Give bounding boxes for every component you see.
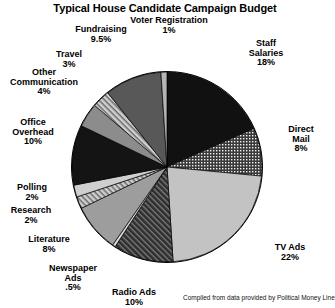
label-polling: Polling 2% (8, 183, 56, 202)
label-newspaper-ads: Newspaper Ads .5% (38, 264, 108, 293)
label-other-communication: Other Communication 4% (2, 68, 86, 97)
label-radio-ads-pct: 10% (99, 298, 169, 308)
label-voter-registration-text: Voter Registration (130, 15, 207, 25)
label-research-pct: 2% (2, 216, 60, 226)
label-other-communication-line1: Other (32, 67, 56, 77)
label-tv-ads-text: TV Ads (275, 242, 306, 252)
label-office-overhead-line1: Office (20, 117, 46, 127)
label-fundraising-pct: 9.5% (62, 35, 140, 45)
label-fundraising: Fundraising 9.5% (62, 25, 140, 44)
label-polling-text: Polling (17, 182, 47, 192)
label-office-overhead-pct: 10% (2, 137, 64, 147)
label-staff-salaries-pct: 18% (236, 58, 296, 68)
label-research-text: Research (11, 205, 52, 215)
label-radio-ads-text: Radio Ads (112, 287, 156, 297)
label-other-communication-pct: 4% (2, 87, 86, 97)
label-literature-pct: 8% (18, 245, 80, 255)
label-fundraising-text: Fundraising (75, 24, 127, 34)
label-staff-salaries: Staff Salaries 18% (236, 39, 296, 68)
label-direct-mail-pct: 8% (278, 144, 324, 154)
source-credit: Compiled from data provided by Political… (183, 294, 335, 301)
label-travel-text: Travel (56, 49, 82, 59)
pie-slice-tv-ads (167, 167, 262, 262)
label-office-overhead: Office Overhead 10% (2, 118, 64, 147)
label-radio-ads: Radio Ads 10% (99, 288, 169, 307)
label-direct-mail: Direct Mail 8% (278, 125, 324, 154)
label-polling-pct: 2% (8, 193, 56, 203)
pie-slices-group (72, 72, 262, 262)
label-tv-ads-pct: 22% (264, 253, 316, 263)
label-literature: Literature 8% (18, 235, 80, 254)
label-direct-mail-line1: Direct (288, 124, 314, 134)
label-newspaper-ads-line1: Newspaper (49, 263, 97, 273)
label-staff-salaries-line1: Staff (256, 38, 276, 48)
label-newspaper-ads-pct: .5% (38, 283, 108, 293)
label-literature-text: Literature (28, 234, 70, 244)
label-research: Research 2% (2, 206, 60, 225)
label-tv-ads: TV Ads 22% (264, 243, 316, 262)
